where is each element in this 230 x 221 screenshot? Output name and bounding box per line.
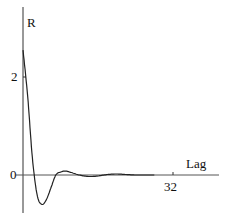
y-tick-label-0: 0 — [10, 168, 17, 181]
autocorrelation-line — [23, 50, 154, 204]
chart-canvas — [0, 0, 230, 221]
x-tick-label-32: 32 — [164, 180, 177, 193]
y-axis-label: R — [27, 16, 36, 29]
y-tick-label-2: 2 — [11, 70, 18, 83]
x-axis-label: Lag — [186, 157, 206, 170]
